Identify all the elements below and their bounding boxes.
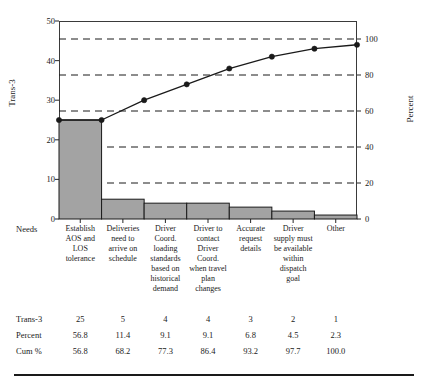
table-cell-r1-c6: 2.3 bbox=[314, 327, 357, 343]
table-cell-r1-c3: 9.1 bbox=[187, 327, 230, 343]
right-tick-0: 0 bbox=[365, 215, 369, 224]
category-labels: Establish AOS and LOS toleranceDeliverie… bbox=[59, 224, 357, 310]
table-row-label-1: Percent bbox=[16, 327, 42, 343]
left-tick-20: 20 bbox=[27, 136, 55, 145]
table-cell-r2-c0: 56.8 bbox=[59, 343, 102, 359]
table-cell-r2-c5: 97.7 bbox=[272, 343, 315, 359]
table-cell-r2-c1: 68.2 bbox=[102, 343, 145, 359]
table-cell-r2-c2: 77.3 bbox=[144, 343, 187, 359]
table-cell-r0-c4: 3 bbox=[229, 311, 272, 327]
left-tick-40: 40 bbox=[27, 56, 55, 65]
table-cell-r1-c1: 11.4 bbox=[102, 327, 145, 343]
table-cell-r1-c2: 9.1 bbox=[144, 327, 187, 343]
right-tick-80: 80 bbox=[365, 71, 374, 80]
table-cell-r1-c5: 4.5 bbox=[272, 327, 315, 343]
category-label-3: Driver to contact Driver Coord. when tra… bbox=[187, 224, 230, 310]
right-tick-40: 40 bbox=[365, 143, 374, 152]
table-row-cells-2: 56.868.277.386.493.297.7100.0 bbox=[59, 343, 357, 359]
category-label-2: Driver Coord. loading standards based on… bbox=[144, 224, 187, 310]
bottom-divider bbox=[14, 374, 414, 376]
category-label-6: Other bbox=[314, 224, 357, 310]
plot-area bbox=[59, 21, 357, 219]
table-row-cells-0: 25544321 bbox=[59, 311, 357, 327]
pareto-chart-figure: 0 10 20 30 40 50 0 20 40 60 80 100 Trans… bbox=[0, 0, 427, 387]
table-row: Percent56.811.49.19.16.84.52.3 bbox=[0, 327, 427, 343]
right-tick-20: 20 bbox=[365, 179, 374, 188]
table-row: Cum %56.868.277.386.493.297.7100.0 bbox=[0, 343, 427, 359]
left-tick-30: 30 bbox=[27, 96, 55, 105]
table-cell-r2-c3: 86.4 bbox=[187, 343, 230, 359]
x-axis-title: Needs bbox=[16, 224, 37, 234]
table-cell-r2-c6: 100.0 bbox=[314, 343, 357, 359]
category-label-1: Deliveries need to arrive on schedule bbox=[102, 224, 145, 310]
x-tick-marks bbox=[80, 219, 335, 223]
category-label-4: Accurate request details bbox=[229, 224, 272, 310]
table-cell-r0-c6: 1 bbox=[314, 311, 357, 327]
table-row-label-2: Cum % bbox=[16, 343, 42, 359]
left-axis-title: Trans-3 bbox=[7, 63, 17, 123]
table-row: Trans-325544321 bbox=[0, 311, 427, 327]
table-cell-r0-c3: 4 bbox=[187, 311, 230, 327]
table-cell-r0-c1: 5 bbox=[102, 311, 145, 327]
table-cell-r2-c4: 93.2 bbox=[229, 343, 272, 359]
table-cell-r1-c0: 56.8 bbox=[59, 327, 102, 343]
left-tick-10: 10 bbox=[27, 175, 55, 184]
right-tick-60: 60 bbox=[365, 107, 374, 116]
category-label-5: Driver supply must be available within d… bbox=[272, 224, 315, 310]
left-tick-0: 0 bbox=[27, 215, 55, 224]
table-cell-r1-c4: 6.8 bbox=[229, 327, 272, 343]
data-table: Trans-325544321Percent56.811.49.19.16.84… bbox=[0, 311, 427, 359]
table-cell-r0-c0: 25 bbox=[59, 311, 102, 327]
left-tick-50: 50 bbox=[27, 17, 55, 26]
category-label-0: Establish AOS and LOS tolerance bbox=[59, 224, 102, 310]
right-axis-title: Percent bbox=[405, 79, 415, 139]
table-row-label-0: Trans-3 bbox=[16, 311, 42, 327]
table-row-cells-1: 56.811.49.19.16.84.52.3 bbox=[59, 327, 357, 343]
right-tick-100: 100 bbox=[365, 35, 378, 44]
table-cell-r0-c2: 4 bbox=[144, 311, 187, 327]
table-cell-r0-c5: 2 bbox=[272, 311, 315, 327]
